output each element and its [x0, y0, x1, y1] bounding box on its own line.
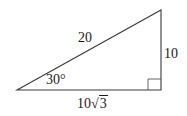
- angle-label: 30°: [46, 73, 66, 87]
- adjacent-coefficient: 10: [77, 96, 91, 111]
- radical-symbol: √: [91, 96, 99, 111]
- hypotenuse-label: 20: [78, 31, 92, 45]
- opposite-side-label: 10: [164, 47, 178, 61]
- adjacent-side-label: 10√3: [77, 97, 108, 111]
- radicand: 3: [99, 95, 108, 111]
- triangle-outline: [17, 10, 161, 90]
- right-angle-marker: [148, 79, 161, 90]
- square-root: √3: [91, 97, 108, 111]
